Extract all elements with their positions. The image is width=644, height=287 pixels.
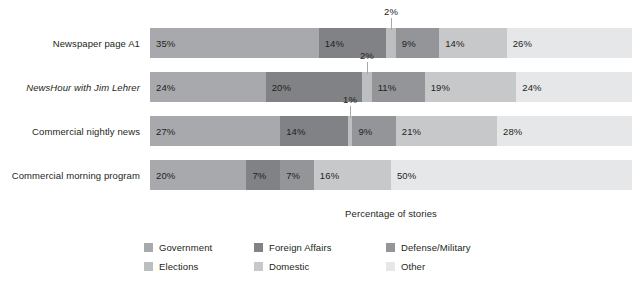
bar-segment: 7% (246, 160, 280, 190)
segment-value-label: 21% (396, 126, 421, 137)
legend-swatch-icon (254, 243, 263, 252)
bar-segment: 20% (150, 160, 246, 190)
segment-value-label: 24% (150, 82, 175, 93)
segment-value-label: 9% (352, 126, 372, 137)
callout-leader-line (391, 18, 392, 30)
legend-row: ElectionsDomesticOther (144, 257, 564, 276)
legend-item[interactable]: Government (144, 238, 254, 257)
bar-segment: 28% (497, 116, 632, 146)
bar-segment (362, 72, 372, 102)
chart-row: Commercial nightly news27%14%9%21%28% (0, 116, 644, 146)
x-axis-label: Percentage of stories (150, 208, 632, 219)
segment-value-label: 7% (280, 170, 300, 181)
chart-row: NewsHour with Jim Lehrer24%20%11%19%24% (0, 72, 644, 102)
bar-segment: 14% (439, 28, 506, 58)
row-label: Commercial morning program (0, 160, 140, 190)
segment-value-label: 14% (280, 126, 305, 137)
legend-label: Foreign Affairs (269, 242, 332, 253)
row-label: Newspaper page A1 (0, 28, 140, 58)
segment-callout-label: 2% (360, 50, 374, 61)
legend-swatch-icon (144, 243, 153, 252)
bar-segment: 26% (507, 28, 632, 58)
bar-segment: 9% (352, 116, 395, 146)
segment-callout-label: 2% (384, 6, 398, 17)
row-label: Commercial nightly news (0, 116, 140, 146)
legend-label: Government (159, 242, 212, 253)
stacked-bar-chart: Newspaper page A135%14%9%14%26%NewsHour … (0, 0, 644, 287)
legend-label: Defense/Military (401, 242, 471, 253)
stacked-bar: 27%14%9%21%28% (150, 116, 632, 146)
bar-segment: 35% (150, 28, 319, 58)
segment-value-label: 28% (497, 126, 522, 137)
bar-segment: 24% (150, 72, 266, 102)
legend-item[interactable]: Elections (144, 257, 254, 276)
bar-segment: 16% (314, 160, 391, 190)
legend-item[interactable]: Foreign Affairs (254, 238, 386, 257)
bar-segment: 9% (396, 28, 439, 58)
stacked-bar: 20%7%7%16%50% (150, 160, 632, 190)
bar-segment: 27% (150, 116, 280, 146)
legend-item[interactable]: Other (386, 257, 526, 276)
chart-legend: GovernmentForeign AffairsDefense/Militar… (144, 238, 564, 276)
legend-swatch-icon (254, 262, 263, 271)
segment-value-label: 50% (391, 170, 416, 181)
segment-value-label: 20% (266, 82, 291, 93)
stacked-bar: 24%20%11%19%24% (150, 72, 632, 102)
segment-value-label: 11% (372, 82, 397, 93)
bar-segment: 24% (516, 72, 632, 102)
chart-row: Commercial morning program20%7%7%16%50% (0, 160, 644, 190)
callout-leader-line (367, 62, 368, 74)
segment-value-label: 26% (507, 38, 532, 49)
callout-leader-line (350, 106, 351, 118)
legend-row: GovernmentForeign AffairsDefense/Militar… (144, 238, 564, 257)
bar-segment (386, 28, 396, 58)
chart-row: Newspaper page A135%14%9%14%26% (0, 28, 644, 58)
segment-value-label: 35% (150, 38, 175, 49)
legend-swatch-icon (144, 262, 153, 271)
segment-value-label: 27% (150, 126, 175, 137)
legend-label: Elections (159, 261, 198, 272)
segment-value-label: 20% (150, 170, 175, 181)
bar-segment: 21% (396, 116, 497, 146)
legend-item[interactable]: Defense/Military (386, 238, 526, 257)
legend-item[interactable]: Domestic (254, 257, 386, 276)
legend-label: Domestic (269, 261, 309, 272)
bar-segment: 7% (280, 160, 314, 190)
bar-segment: 11% (372, 72, 425, 102)
segment-value-label: 16% (314, 170, 339, 181)
segment-value-label: 9% (396, 38, 416, 49)
segment-value-label: 7% (246, 170, 266, 181)
bar-segment: 50% (391, 160, 632, 190)
segment-value-label: 24% (516, 82, 541, 93)
legend-label: Other (401, 261, 425, 272)
bar-segment: 19% (425, 72, 517, 102)
segment-value-label: 14% (319, 38, 344, 49)
segment-value-label: 14% (439, 38, 464, 49)
legend-swatch-icon (386, 243, 395, 252)
segment-callout-label: 1% (343, 94, 357, 105)
bar-segment: 14% (280, 116, 347, 146)
row-label: NewsHour with Jim Lehrer (0, 72, 140, 102)
legend-swatch-icon (386, 262, 395, 271)
segment-value-label: 19% (425, 82, 450, 93)
bar-segment: 14% (319, 28, 386, 58)
stacked-bar: 35%14%9%14%26% (150, 28, 632, 58)
